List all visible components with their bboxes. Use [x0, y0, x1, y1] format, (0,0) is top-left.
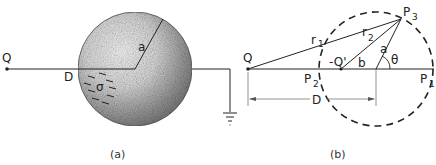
- svg-text:P: P: [420, 72, 427, 86]
- svg-text:P: P: [304, 72, 311, 86]
- panel-b: Q -Q' r 1 r 2 a θ b D P 3 P 2 P 1 (b): [243, 5, 435, 161]
- surface-charge-label: σ: [96, 80, 104, 94]
- p2-label: P 2: [304, 72, 319, 89]
- r1-line: [248, 19, 401, 69]
- image-charge-label: -Q': [329, 55, 347, 69]
- charge-label-a: Q: [2, 51, 11, 65]
- theta-label: θ: [391, 53, 398, 67]
- svg-text:r: r: [311, 33, 316, 47]
- distance-label-a: D: [64, 70, 73, 84]
- caption-a: (a): [110, 148, 125, 161]
- svg-text:P: P: [403, 5, 410, 19]
- svg-text:r: r: [362, 25, 367, 39]
- theta-arc: [382, 56, 390, 69]
- charge-point-b: [246, 67, 250, 71]
- ground-wire: [192, 69, 230, 112]
- svg-text:2: 2: [368, 33, 374, 43]
- charge-label-b: Q: [243, 51, 252, 65]
- r1-label: r 1: [311, 33, 324, 49]
- dim-arrow-left: [249, 97, 256, 101]
- b-label: b: [358, 56, 366, 70]
- caption-b: (b): [330, 148, 346, 161]
- figure-canvas: Q D a σ (a): [0, 0, 436, 165]
- svg-text:3: 3: [412, 12, 418, 22]
- panel-a: Q D a σ (a): [2, 12, 237, 161]
- svg-text:2: 2: [313, 79, 319, 89]
- dim-arrow-right: [368, 97, 375, 101]
- radius-label-a: a: [138, 40, 145, 54]
- svg-text:1: 1: [429, 79, 435, 89]
- p3-label: P 3: [403, 5, 418, 22]
- svg-text:1: 1: [318, 39, 324, 49]
- distance-label-b: D: [312, 93, 321, 107]
- charge-point-a: [5, 67, 9, 71]
- r2-label: r 2: [362, 25, 374, 43]
- radius-label-b: a: [380, 42, 387, 56]
- ground-icon: [223, 113, 237, 125]
